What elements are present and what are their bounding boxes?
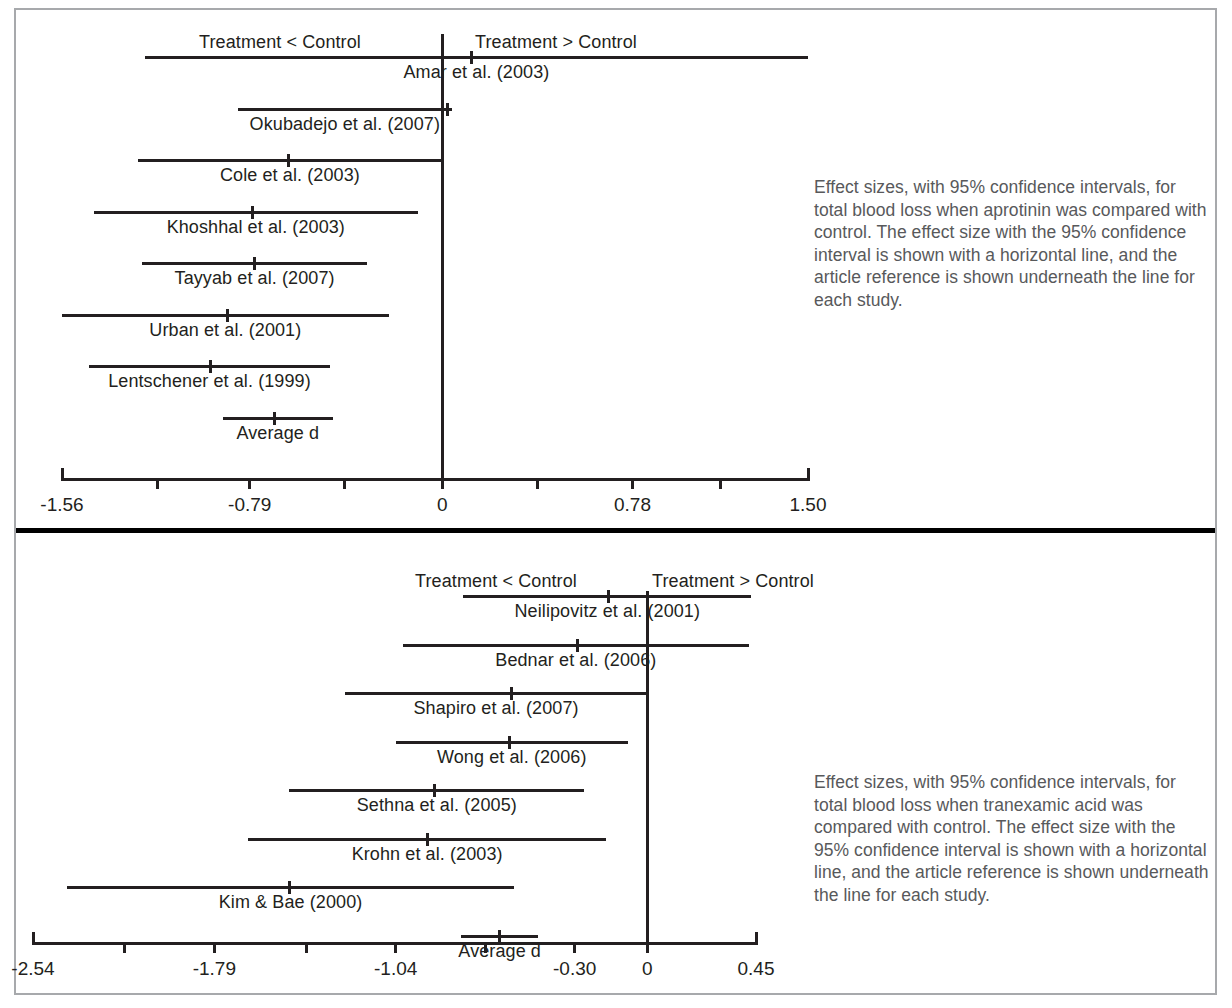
confidence-interval-line	[223, 417, 333, 420]
x-axis-minor-tick	[343, 478, 346, 489]
x-axis-tick	[631, 478, 634, 489]
x-axis-tick	[248, 478, 251, 489]
study-reference-label: Krohn et al. (2003)	[352, 844, 503, 865]
x-axis-tick-label: 0	[437, 494, 448, 516]
x-axis-tick	[394, 942, 397, 953]
zero-reference-line	[441, 34, 444, 478]
effect-size-marker	[446, 103, 449, 116]
confidence-interval-line	[345, 692, 647, 695]
caption-aprotinin: Effect sizes, with 95% confidence interv…	[814, 176, 1214, 311]
confidence-interval-line	[396, 741, 628, 744]
x-axis-tick-label: -1.56	[40, 494, 83, 516]
study-reference-label: Okubadejo et al. (2007)	[250, 114, 440, 135]
x-axis-tick	[213, 942, 216, 953]
x-axis-minor-tick	[156, 478, 159, 489]
forest-plot-aprotinin: Treatment < ControlTreatment > ControlAm…	[0, 0, 1232, 528]
direction-label-right: Treatment > Control	[652, 571, 814, 592]
x-axis-minor-tick	[484, 942, 487, 953]
direction-label-left: Treatment < Control	[415, 571, 577, 592]
caption-text: Effect sizes, with 95% confidence interv…	[814, 771, 1214, 906]
study-reference-label: Lentschener et al. (1999)	[108, 371, 311, 392]
x-axis-tick	[61, 468, 64, 481]
x-axis-tick-label: 1.50	[790, 494, 827, 516]
direction-label-right: Treatment > Control	[475, 32, 637, 53]
study-reference-label: Tayyab et al. (2007)	[175, 268, 335, 289]
x-axis-tick-label: -2.54	[11, 958, 54, 980]
plot-area-tranexamic-acid: Treatment < ControlTreatment > ControlNe…	[0, 533, 1232, 995]
caption-tranexamic-acid: Effect sizes, with 95% confidence interv…	[814, 771, 1214, 906]
x-axis-line	[62, 478, 808, 481]
x-axis-minor-tick	[305, 942, 308, 953]
confidence-interval-line	[145, 56, 808, 59]
x-axis-tick	[807, 468, 810, 481]
study-reference-label: Khoshhal et al. (2003)	[167, 217, 345, 238]
study-reference-label: Urban et al. (2001)	[149, 320, 301, 341]
confidence-interval-line	[289, 789, 584, 792]
x-axis-tick-label: 0	[642, 958, 653, 980]
x-axis-minor-tick	[719, 478, 722, 489]
study-reference-label: Sethna et al. (2005)	[357, 795, 517, 816]
caption-text: Effect sizes, with 95% confidence interv…	[814, 176, 1214, 311]
x-axis-tick	[573, 942, 576, 953]
study-reference-label: Cole et al. (2003)	[220, 165, 360, 186]
x-axis-tick-label: -1.04	[374, 958, 417, 980]
study-reference-label: Bednar et al. (2006)	[495, 650, 656, 671]
direction-label-left: Treatment < Control	[199, 32, 361, 53]
study-reference-label: Kim & Bae (2000)	[219, 892, 363, 913]
x-axis-tick	[32, 932, 35, 945]
x-axis-tick-label: 0.78	[614, 494, 651, 516]
figure-page: Treatment < ControlTreatment > ControlAm…	[0, 0, 1232, 1008]
average-effect-label: Average d	[236, 423, 319, 444]
study-reference-label: Wong et al. (2006)	[437, 747, 587, 768]
x-axis-tick-label: 0.45	[738, 958, 775, 980]
confidence-interval-line	[238, 108, 453, 111]
x-axis-tick-label: -0.30	[553, 958, 596, 980]
x-axis-tick-label: -1.79	[193, 958, 236, 980]
study-reference-label: Amar et al. (2003)	[404, 62, 550, 83]
x-axis-tick	[646, 942, 649, 953]
study-reference-label: Shapiro et al. (2007)	[413, 698, 578, 719]
forest-plot-tranexamic-acid: Treatment < ControlTreatment > ControlNe…	[0, 533, 1232, 995]
x-axis-minor-tick	[536, 478, 539, 489]
x-axis-tick	[755, 932, 758, 945]
x-axis-tick-label: -0.79	[228, 494, 271, 516]
confidence-interval-line	[94, 211, 418, 214]
x-axis-minor-tick	[123, 942, 126, 953]
study-reference-label: Neilipovitz et al. (2001)	[514, 601, 700, 622]
x-axis-tick	[441, 478, 444, 489]
